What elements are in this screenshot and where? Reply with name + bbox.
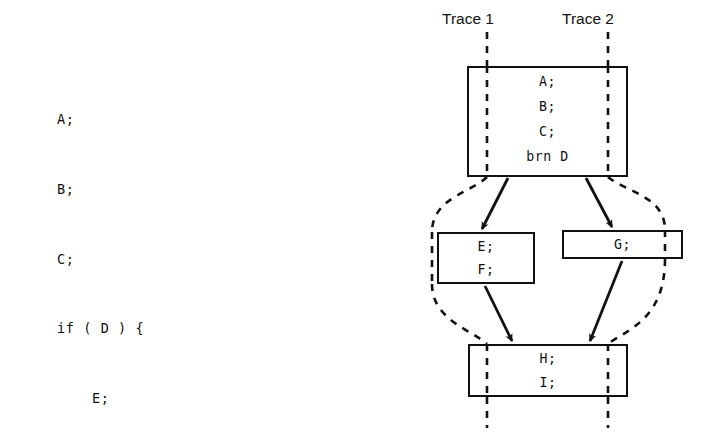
entry-block-line: C; xyxy=(469,124,626,139)
code-line: if ( D ) { xyxy=(57,317,144,340)
trace-diagram: Trace 1 Trace 2 xyxy=(400,0,717,441)
code-line: A; xyxy=(57,108,144,131)
edge-entry-to-then xyxy=(482,178,508,229)
join-block-line: H; xyxy=(470,351,626,366)
code-line: B; xyxy=(57,178,144,201)
then-block-line: E; xyxy=(439,239,533,254)
edge-then-to-join xyxy=(485,286,512,341)
else-block-line: G; xyxy=(564,237,681,252)
join-block-line: I; xyxy=(470,375,626,390)
entry-block: A; B; C; brn D xyxy=(467,66,628,177)
code-line: E; xyxy=(57,387,144,410)
then-block-line: F; xyxy=(439,262,533,277)
edge-entry-to-else xyxy=(586,178,612,227)
entry-block-line: B; xyxy=(469,99,626,114)
entry-block-line: brn D xyxy=(469,149,626,164)
then-block: E; F; xyxy=(437,232,535,284)
code-line: C; xyxy=(57,248,144,271)
else-block: G; xyxy=(562,230,683,259)
join-block: H; I; xyxy=(468,344,628,397)
figure-root: A; B; C; if ( D ) { E; F; } else { G; } … xyxy=(0,0,717,441)
source-code-listing: A; B; C; if ( D ) { E; F; } else { G; } … xyxy=(57,62,144,441)
edge-else-to-join xyxy=(590,261,622,341)
entry-block-line: A; xyxy=(469,74,626,89)
